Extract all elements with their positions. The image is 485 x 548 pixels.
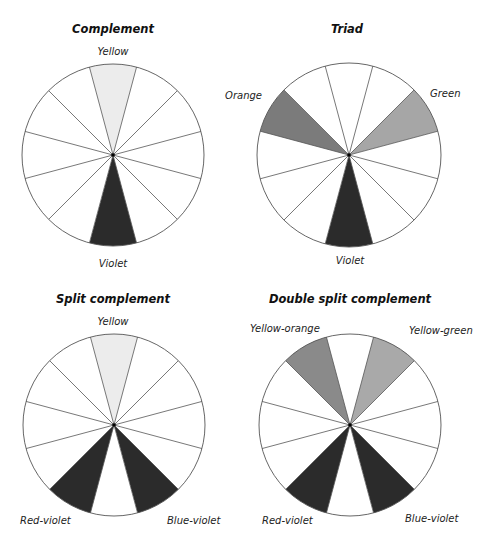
wheel-title: Complement xyxy=(72,22,154,36)
color-label-blue-violet: Blue-violet xyxy=(167,515,221,526)
wheel-center-dot xyxy=(111,153,115,157)
color-label-red-violet: Red-violet xyxy=(262,515,314,526)
color-label-yellow: Yellow xyxy=(97,316,129,327)
wheel-center-dot xyxy=(348,423,352,427)
wheel-double-split-complement: Double split complementYellow-orangeYell… xyxy=(250,292,473,526)
wheel-title: Double split complement xyxy=(269,292,432,306)
wheel-title: Triad xyxy=(331,22,364,36)
color-harmony-diagram: ComplementYellowViolet TriadOrangeGreenV… xyxy=(0,0,485,548)
color-label-blue-violet: Blue-violet xyxy=(405,513,459,524)
color-label-orange: Orange xyxy=(225,90,262,101)
color-label-yellow-green: Yellow-green xyxy=(409,325,473,336)
wheel-center-dot xyxy=(347,153,351,157)
color-label-violet: Violet xyxy=(99,258,129,269)
wheel-complement: ComplementYellowViolet xyxy=(22,22,204,269)
wheel-triad: TriadOrangeGreenViolet xyxy=(225,22,460,266)
wheel-split-complement: Split complementYellowRed-violetBlue-vio… xyxy=(20,292,221,526)
color-label-yellow: Yellow xyxy=(97,46,129,57)
wheel-title: Split complement xyxy=(56,292,171,306)
color-label-violet: Violet xyxy=(336,255,366,266)
color-label-green: Green xyxy=(430,88,461,99)
wheel-center-dot xyxy=(112,423,116,427)
color-label-yellow-orange: Yellow-orange xyxy=(250,323,320,334)
color-label-red-violet: Red-violet xyxy=(20,515,72,526)
